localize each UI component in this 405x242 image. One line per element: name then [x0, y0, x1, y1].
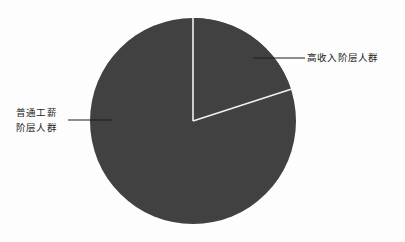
pie-chart-canvas [0, 0, 405, 242]
pie-label-ordinary-wage-line1: 普通工薪 [16, 105, 57, 120]
pie-label-high-income: 高收入阶层人群 [307, 50, 378, 65]
pie-label-ordinary-wage-line2: 阶层人群 [16, 120, 57, 135]
pie-label-ordinary-wage: 普通工薪 阶层人群 [16, 105, 57, 135]
pie-chart-figure: 高收入阶层人群 普通工薪 阶层人群 [0, 0, 405, 242]
